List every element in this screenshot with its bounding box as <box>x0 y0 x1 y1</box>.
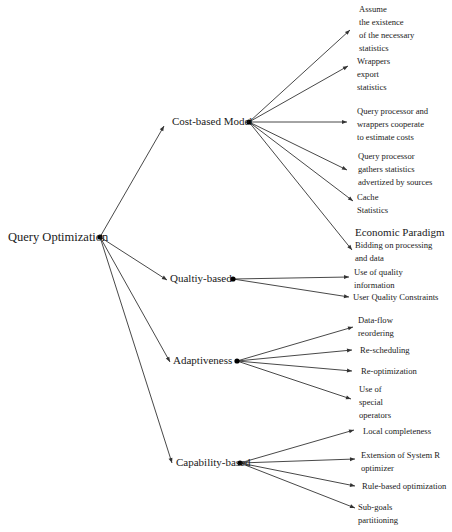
leaf-node-capability-0: Local completeness <box>363 425 431 438</box>
edge-cost-leaf-3 <box>249 122 347 170</box>
leaf-node-cost-4: CacheStatistics <box>357 191 388 217</box>
dot-group <box>97 119 251 465</box>
leaf-text-line: operators <box>359 409 391 422</box>
leaf-text-line: statistics <box>357 81 390 94</box>
edge-root-to-adaptive <box>100 237 170 362</box>
leaf-text-line: wrappers cooperate <box>357 118 428 131</box>
leaf-node-adaptive-2: Re-optimization <box>361 365 417 378</box>
leaf-text-line: and data <box>355 252 445 265</box>
leaf-text-line: Extension of System R <box>361 449 440 462</box>
leaf-text-line: Re-optimization <box>361 365 417 378</box>
edge-root-to-quality <box>100 237 167 280</box>
leaf-text-line: optimizer <box>361 462 440 475</box>
branch-node-capability: Capability-based <box>176 457 251 468</box>
leaf-text-line: Statistics <box>357 204 388 217</box>
edge-quality-leaf-0 <box>233 277 349 279</box>
leaf-text-line: Local completeness <box>363 425 431 438</box>
leaf-text-line: statistics <box>359 42 414 55</box>
leaf-node-cost-1: Wrappersexportstatistics <box>357 55 390 94</box>
leaf-text-line: advertized by sources <box>358 176 432 189</box>
leaf-text-line: Use of quality <box>354 266 403 279</box>
leaf-text-line: Re-scheduling <box>360 344 410 357</box>
leaf-text-line: special <box>359 396 391 409</box>
leaf-node-adaptive-1: Re-scheduling <box>360 344 410 357</box>
dot-adaptive <box>234 358 239 363</box>
edge-adaptive-leaf-3 <box>237 361 351 399</box>
edge-adaptive-leaf-2 <box>237 361 352 371</box>
edge-capability-leaf-1 <box>240 459 355 463</box>
leaf-text-line: partitioning <box>358 514 398 527</box>
edge-cost-leaf-0 <box>249 30 350 122</box>
leaf-text-line: Data-flow <box>358 314 394 327</box>
diagram-canvas: Query Optimization Cost-based ModelQualt… <box>0 0 452 532</box>
leaf-node-cost-2: Query processor andwrappers cooperateto … <box>357 105 428 144</box>
edge-cost-leaf-5 <box>249 122 352 250</box>
edge-root-to-capability <box>100 237 172 463</box>
leaf-text-line: Wrappers <box>357 55 390 68</box>
leaf-text-line: of the necessary <box>359 29 414 42</box>
leaf-text-line: Cache <box>357 191 388 204</box>
leaf-text-line: Query processor <box>358 150 432 163</box>
branch-node-adaptive: Adaptiveness <box>173 355 232 366</box>
branch-node-cost: Cost-based Model <box>172 116 252 127</box>
edge-cost-leaf-4 <box>249 122 353 201</box>
leaf-text-line: Bidding on processing <box>355 239 445 252</box>
leaf-node-capability-2: Rule-based optimization <box>362 480 446 493</box>
root-node-query-optimization: Query Optimization <box>8 231 108 244</box>
edge-capability-leaf-3 <box>240 463 355 508</box>
edge-capability-leaf-2 <box>240 463 355 486</box>
leaf-text-line: Use of <box>359 383 391 396</box>
leaf-node-quality-1: User Quality Constraints <box>353 291 438 304</box>
edge-group <box>100 30 355 508</box>
branch-node-quality: Qualtiy-based <box>170 273 232 284</box>
leaf-node-cost-0: Assumethe existenceof the necessarystati… <box>359 3 414 55</box>
leaf-text-line: the existence <box>359 16 414 29</box>
edge-quality-leaf-1 <box>233 279 349 297</box>
edge-cost-leaf-1 <box>249 66 348 122</box>
leaf-node-quality-0: Use of qualityinformation <box>354 266 403 292</box>
leaf-text-line: Economic Paradigm <box>355 226 445 239</box>
leaf-text-line: Assume <box>359 3 414 16</box>
leaf-text-line: Query processor and <box>357 105 428 118</box>
leaf-node-cost-3: Query processorgathers statisticsadverti… <box>358 150 432 189</box>
leaf-text-line: reordering <box>358 327 394 340</box>
leaf-node-adaptive-3: Use ofspecialoperators <box>359 383 391 422</box>
leaf-node-capability-1: Extension of System Roptimizer <box>361 449 440 475</box>
leaf-text-line: export <box>357 68 390 81</box>
leaf-text-line: gathers statistics <box>358 163 432 176</box>
leaf-text-line: Sub-goals <box>358 501 398 514</box>
leaf-text-line: Rule-based optimization <box>362 480 446 493</box>
edge-root-to-cost <box>100 126 164 237</box>
leaf-text-line: User Quality Constraints <box>353 291 438 304</box>
leaf-node-capability-3: Sub-goalspartitioning <box>358 501 398 527</box>
leaf-text-line: to estimate costs <box>357 131 428 144</box>
leaf-node-cost-5: Economic ParadigmBidding on processingan… <box>355 226 445 265</box>
edge-capability-leaf-0 <box>240 430 354 463</box>
leaf-node-adaptive-0: Data-flowreordering <box>358 314 394 340</box>
